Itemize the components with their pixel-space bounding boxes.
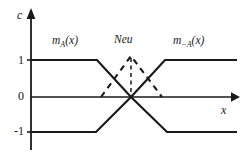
series-label-m-a-subscript: A [60,40,65,49]
chart-canvas [0,0,252,157]
series-m-a-curve [31,60,237,132]
y-tick-label-minus-one: -1 [4,125,24,137]
x-axis-label: x [221,104,226,116]
series-label-m-a-suffix: (x) [65,34,78,46]
series-label-m-not-a: m−A(x) [173,35,204,47]
y-axis [27,8,36,150]
y-tick-label-one: 1 [8,54,24,66]
series-m-not-a-curve [31,60,237,132]
series-label-m-not-a-subscript: −A [181,40,191,49]
series-label-m-a: mA(x) [52,35,78,47]
y-tick-label-zero: 0 [8,90,24,102]
series-label-neu: Neu [114,34,133,46]
series-label-m-not-a-suffix: (x) [192,34,205,46]
y-axis-label: c [17,9,22,21]
figure-container: c x 1 0 -1 mA(x) Neu m−A(x) [0,0,252,157]
